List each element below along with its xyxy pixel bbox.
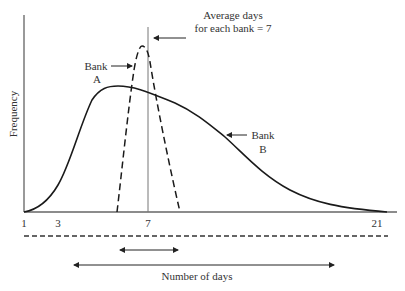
- average-label-line1: Average days: [203, 9, 262, 21]
- bank-b-label-line2: B: [259, 143, 266, 155]
- average-label-line2: for each bank = 7: [194, 22, 272, 34]
- tick-3: 3: [55, 217, 61, 229]
- bank-a-label-line2: A: [93, 73, 101, 85]
- distribution-chart: Frequency Average days for each bank = 7…: [0, 0, 405, 291]
- bank-b-label-line1: Bank: [251, 129, 275, 141]
- bank-a-label-line1: Bank: [84, 60, 108, 72]
- x-axis-label: Number of days: [162, 270, 233, 282]
- y-axis-label: Frequency: [7, 90, 19, 137]
- tick-7: 7: [145, 217, 151, 229]
- bank-b-curve: [24, 86, 387, 212]
- tick-1: 1: [21, 217, 27, 229]
- tick-21: 21: [372, 217, 383, 229]
